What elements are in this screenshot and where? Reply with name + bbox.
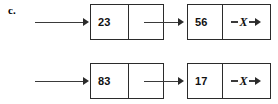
node-pointer-cell: X [223, 64, 270, 98]
arrow-right-icon [255, 77, 261, 85]
node-data-cell: 56 [188, 5, 223, 39]
null-dash [231, 21, 238, 22]
null-pointer-marker: X [223, 64, 270, 98]
node-box: 56 X [187, 4, 271, 40]
linked-list-row-2: 83 17 X [0, 61, 278, 103]
arrow-right-icon [178, 77, 184, 85]
node-box: 17 X [187, 63, 271, 99]
arrow-right-icon [83, 77, 89, 85]
arrow-right-icon [255, 18, 261, 26]
null-arrow [249, 77, 262, 85]
node-pointer-cell: X [223, 5, 270, 39]
linked-list-row-1: 23 56 X [0, 2, 278, 44]
arrow-shaft [35, 81, 85, 82]
arrow-shaft [144, 81, 180, 82]
linked-list-figure: c. 23 56 X [0, 0, 278, 104]
arrow-shaft [35, 22, 85, 23]
node-data-cell: 17 [188, 64, 223, 98]
null-dash [231, 80, 238, 81]
null-pointer-marker: X [223, 5, 270, 39]
null-x-symbol: X [239, 75, 247, 87]
node-data-cell: 83 [91, 64, 129, 98]
arrow-right-icon [83, 18, 89, 26]
null-x-symbol: X [239, 16, 247, 28]
arrow-right-icon [178, 18, 184, 26]
arrow-shaft [144, 22, 180, 23]
node-data-cell: 23 [91, 5, 129, 39]
null-arrow [249, 18, 262, 26]
